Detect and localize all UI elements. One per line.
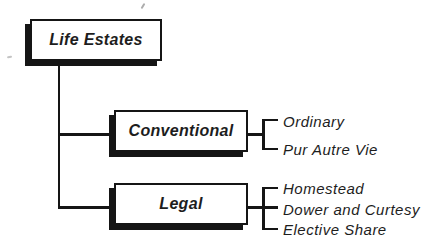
leaf-elective-share: Elective Share [283,221,387,239]
leaf-dower-and-curtesy: Dower and Curtesy [283,201,420,219]
node-life-estates-label: Life Estates [49,31,142,49]
leaf-ordinary: Ordinary [283,113,345,131]
bracket-tick-elective-share [262,228,278,231]
bracket-conventional [262,119,265,151]
scan-artifact [141,3,146,9]
scan-artifact [7,55,12,58]
bracket-tick-homestead [262,187,278,190]
leaf-homestead: Homestead [283,180,364,198]
connector-branch-legal [58,206,117,209]
node-life-estates: Life Estates [30,19,162,61]
bracket-legal [262,187,265,231]
node-legal-label: Legal [159,195,202,213]
bracket-tick-pur-autre-vie [262,148,278,151]
connector-branch-conventional [58,133,117,136]
life-estates-diagram: Life Estates Conventional Legal Ordinary… [0,0,434,245]
node-conventional: Conventional [114,110,248,152]
node-legal: Legal [114,183,248,225]
leaf-pur-autre-vie: Pur Autre Vie [283,141,378,159]
node-conventional-label: Conventional [129,122,234,140]
bracket-tick-ordinary [262,119,278,122]
